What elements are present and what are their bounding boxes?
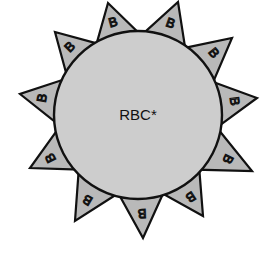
antigen-b-label: B bbox=[137, 206, 146, 221]
cell-label: RBC* bbox=[119, 106, 157, 123]
rbc-antigen-diagram: BBBBBBBBBBB RBC* bbox=[0, 0, 260, 272]
